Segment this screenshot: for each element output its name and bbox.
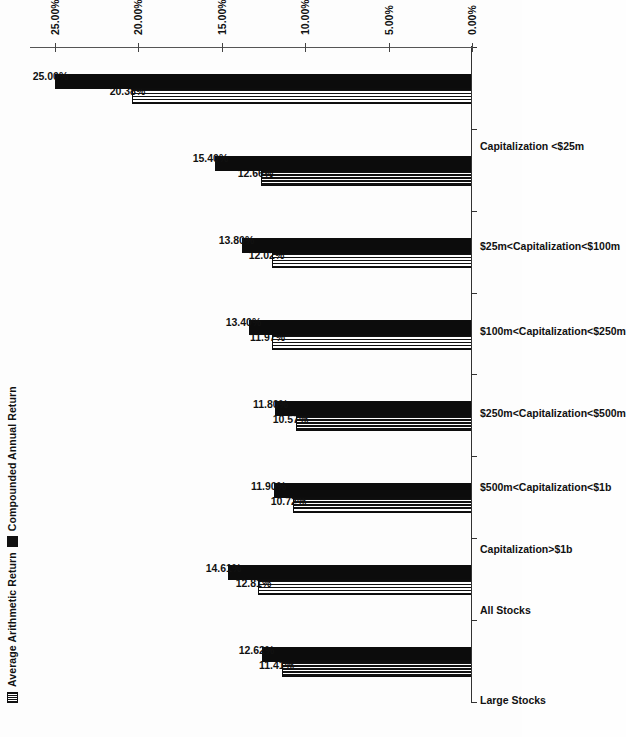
category-label-text: $250m<Capitalization<$500m [480, 408, 626, 419]
bar-group: 10.57%11.80% [30, 376, 472, 458]
bar: 11.90% [274, 483, 472, 498]
bar-group: 12.02%13.80% [30, 212, 472, 294]
bar: 10.72% [293, 498, 472, 513]
bar: 11.97% [272, 335, 472, 350]
bar-group: 10.72%11.90% [30, 457, 472, 539]
category-label-text: $100m<Capitalization<$250m [480, 326, 626, 337]
plot-area: 11.41%12.62%12.81%14.61%10.72%11.90%10.5… [30, 48, 472, 703]
bar-value-label: 15.40% [192, 153, 228, 164]
value-axis-tick [389, 43, 390, 52]
chart-legend: Average Arithmetic Return Compounded Ann… [6, 386, 18, 703]
bar: 13.80% [242, 238, 472, 253]
bar-group: 11.41%12.62% [30, 621, 472, 703]
bar-group: 12.66%15.40% [30, 130, 472, 212]
bar-value-label: 11.80% [253, 398, 288, 409]
bar-value-label: 13.80% [219, 235, 255, 246]
value-axis-tick-label: 15.00% [216, 0, 228, 35]
bar-value-label: 14.61% [206, 562, 242, 573]
bar: 12.66% [261, 171, 472, 186]
bar: 11.80% [275, 401, 472, 416]
bar-value-label: 25.00% [32, 71, 68, 82]
category-label: Capitalization>$1b [474, 457, 518, 539]
category-label-text: $25m<Capitalization<$100m [480, 241, 620, 252]
value-axis-tick-label: 10.00% [299, 0, 311, 35]
value-axis-tick [222, 43, 223, 52]
value-axis-spine [30, 47, 472, 48]
bar-value-label: 13.40% [226, 317, 262, 328]
bar-value-label: 12.62% [239, 644, 275, 655]
bar: 14.61% [228, 565, 472, 580]
legend-label-compounded-annual-return: Compounded Annual Return [6, 386, 18, 531]
bar-group: 20.38%25.00% [30, 48, 472, 130]
bar: 12.62% [262, 647, 472, 662]
category-label-text: $500m<Capitalization<$1b [480, 482, 611, 493]
value-axis-tick [55, 43, 56, 52]
category-label: Large Stocks [474, 621, 518, 703]
value-axis-tick [138, 43, 139, 52]
category-label-text: Capitalization>$1b [480, 545, 572, 556]
bar: 25.00% [55, 74, 472, 89]
legend-swatch-compounded-annual-return [7, 536, 18, 547]
bar: 11.41% [282, 662, 472, 677]
category-label: Capitalization <$25m [474, 48, 518, 130]
bar-group: 11.97%13.40% [30, 294, 472, 376]
value-axis-tick-label: 25.00% [49, 0, 61, 35]
value-axis-tick [472, 43, 473, 52]
bar: 12.81% [258, 580, 472, 595]
bar: 12.02% [272, 253, 472, 268]
bar: 13.40% [249, 320, 473, 335]
bar: 20.38% [132, 89, 472, 104]
value-axis-tick-label: 0.00% [466, 5, 478, 35]
bar: 10.57% [296, 416, 472, 431]
legend-swatch-average-arithmetic-return [7, 692, 18, 703]
bar-value-label: 11.90% [251, 480, 286, 491]
category-label: $100m<Capitalization<$250m [474, 212, 518, 294]
value-axis-tick [305, 43, 306, 52]
legend-label-average-arithmetic-return: Average Arithmetic Return [6, 552, 18, 687]
category-labels: Large StocksAll StocksCapitalization>$1b… [474, 48, 518, 703]
value-axis-tick-label: 20.00% [132, 0, 144, 35]
category-label-text: Capitalization <$25m [480, 141, 584, 152]
bar: 15.40% [215, 156, 472, 171]
bar-groups: 11.41%12.62%12.81%14.61%10.72%11.90%10.5… [30, 48, 472, 703]
value-axis: 0.00%5.00%10.00%15.00%20.00%25.00% [30, 46, 472, 48]
category-label-text: Large Stocks [480, 695, 546, 706]
category-label-text: All Stocks [480, 606, 531, 617]
value-axis-tick-label: 5.00% [383, 5, 395, 35]
bar-group: 12.81%14.61% [30, 539, 472, 621]
